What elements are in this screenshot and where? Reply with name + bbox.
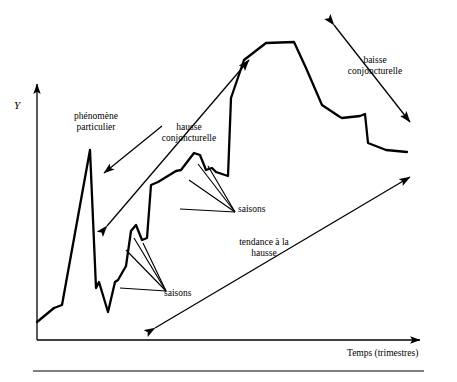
- annotation-saisons-upper: saisons: [238, 204, 265, 215]
- y-axis-label: Y: [14, 99, 20, 111]
- annotation-tendance-hausse: tendance à la hausse: [226, 237, 302, 258]
- annotation-saisons-lower: saisons: [164, 288, 191, 299]
- figure-canvas: Y Temps (trimestres) phénomène particuli…: [0, 0, 457, 382]
- fan-saisons-upper: [180, 164, 235, 212]
- annotation-baisse-conjoncturelle: baisse conjoncturelle: [337, 55, 413, 76]
- series-chronique: [37, 42, 407, 322]
- x-axis-label: Temps (trimestres): [347, 348, 418, 359]
- annotation-hausse-conjoncturelle: hausse conjoncturelle: [152, 122, 226, 143]
- annotation-phenomene-particulier: phénomène particulier: [58, 111, 134, 132]
